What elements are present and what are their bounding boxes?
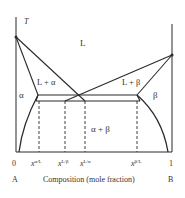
y-axis-label: T	[24, 17, 29, 26]
x-axis-title: Composition (mole fraction)	[43, 175, 135, 184]
x-L-alpha-label: xL/α	[79, 159, 91, 168]
region-alpha-beta-label: α + β	[91, 124, 110, 134]
region-liquid-beta-label: L + β	[122, 77, 140, 87]
solidus-alpha	[16, 37, 38, 95]
component-a-label: A	[12, 175, 18, 184]
x-tick-1: 1	[169, 159, 173, 168]
region-beta-label: β	[153, 90, 158, 100]
phase-diagram: T L L + α L + β α β α + β 0 1 xα/L xL/β …	[0, 0, 185, 198]
x-beta-L-label: xβ/L	[130, 159, 142, 168]
liquidus-alpha	[16, 37, 85, 101]
x-tick-0: 0	[12, 159, 16, 168]
solidus-beta	[137, 55, 172, 95]
region-liquid-alpha-label: L + α	[37, 77, 56, 87]
x-alpha-L-label: xα/L	[30, 159, 42, 168]
component-b-label: B	[168, 175, 173, 184]
solvus-beta	[137, 95, 168, 152]
x-L-beta-label: xL/β	[57, 159, 69, 168]
region-liquid-label: L	[80, 38, 86, 48]
solvus-alpha	[19, 95, 38, 152]
region-alpha-label: α	[19, 90, 24, 100]
